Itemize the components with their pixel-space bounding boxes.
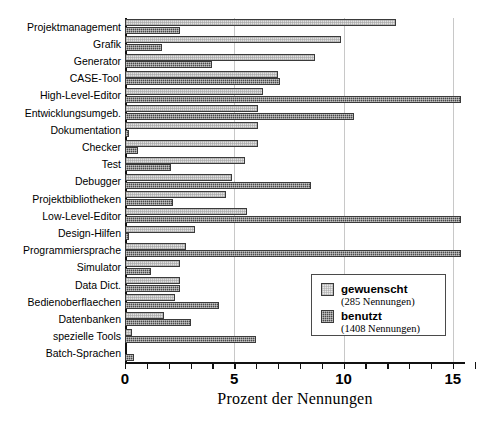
x-tick-label-5: 5 — [230, 370, 238, 387]
bar-benutzt-15 — [125, 285, 180, 292]
category-label-16: Bedienoberflaechen — [0, 296, 121, 307]
bar-chart: 051015 ProjektmanagementGrafikGeneratorC… — [0, 0, 490, 427]
bar-gewuenscht-3 — [125, 71, 278, 78]
bar-gewuenscht-15 — [125, 277, 180, 284]
x-tick-label-15: 15 — [444, 370, 461, 387]
bar-gewuenscht-12 — [125, 226, 195, 233]
x-tick-0 — [125, 362, 126, 369]
bar-benutzt-1 — [125, 44, 162, 51]
legend-label-benutzt: benutzt — [341, 310, 382, 323]
x-axis-title: Prozent der Nennungen — [125, 390, 465, 408]
bar-gewuenscht-0 — [125, 19, 396, 26]
category-label-19: Batch-Sprachen — [0, 348, 121, 359]
x-tick-9 — [322, 362, 323, 369]
bar-gewuenscht-2 — [125, 54, 315, 61]
legend-count-benutzt: (1408 Nennungen) — [341, 323, 420, 335]
bar-gewuenscht-10 — [125, 191, 226, 198]
x-tick-16 — [475, 362, 476, 369]
category-label-7: Checker — [0, 142, 121, 153]
category-label-15: Data Dict. — [0, 279, 121, 290]
bar-gewuenscht-8 — [125, 157, 245, 164]
x-tick-label-0: 0 — [121, 370, 129, 387]
bar-benutzt-17 — [125, 319, 191, 326]
category-label-18: spezielle Tools — [0, 331, 121, 342]
bar-gewuenscht-4 — [125, 88, 263, 95]
legend-swatch-light-icon — [321, 283, 334, 296]
x-tick-10 — [344, 362, 345, 369]
x-tick-4 — [212, 362, 213, 369]
bar-benutzt-14 — [125, 268, 151, 275]
x-tick-2 — [169, 362, 170, 369]
x-tick-13 — [409, 362, 410, 369]
bar-gewuenscht-5 — [125, 105, 258, 112]
category-label-11: Low-Level-Editor — [0, 210, 121, 221]
x-tick-8 — [300, 362, 301, 369]
bar-benutzt-18 — [125, 336, 256, 343]
bar-benutzt-10 — [125, 199, 173, 206]
legend-swatch-dark-icon — [321, 310, 334, 323]
x-axis-line — [125, 362, 465, 364]
gridline-5 — [234, 18, 235, 362]
bar-benutzt-19 — [125, 354, 134, 361]
bar-gewuenscht-6 — [125, 122, 258, 129]
x-tick-14 — [431, 362, 432, 369]
category-label-13: Programmiersprache — [0, 245, 121, 256]
x-tick-11 — [365, 362, 366, 369]
bar-benutzt-4 — [125, 96, 461, 103]
bar-gewuenscht-7 — [125, 140, 258, 147]
x-tick-12 — [387, 362, 388, 369]
x-tick-15 — [453, 362, 454, 369]
category-label-12: Design-Hilfen — [0, 228, 121, 239]
bar-gewuenscht-13 — [125, 243, 186, 250]
x-tick-5 — [234, 362, 235, 369]
x-tick-1 — [147, 362, 148, 369]
category-label-1: Grafik — [0, 38, 121, 49]
bar-benutzt-3 — [125, 78, 280, 85]
category-label-2: Generator — [0, 56, 121, 67]
bar-benutzt-13 — [125, 250, 461, 257]
bar-benutzt-12 — [125, 233, 129, 240]
bar-benutzt-6 — [125, 130, 129, 137]
x-tick-6 — [256, 362, 257, 369]
bar-benutzt-16 — [125, 302, 219, 309]
bar-gewuenscht-17 — [125, 312, 164, 319]
category-label-0: Projektmanagement — [0, 21, 121, 32]
category-label-4: High-Level-Editor — [0, 90, 121, 101]
bar-benutzt-9 — [125, 182, 311, 189]
bar-benutzt-7 — [125, 147, 138, 154]
bar-benutzt-11 — [125, 216, 461, 223]
legend-count-gewuenscht: (285 Nennungen) — [341, 296, 415, 308]
gridline-15 — [453, 18, 454, 362]
bar-gewuenscht-1 — [125, 36, 341, 43]
legend: gewuenscht (285 Nennungen) benutzt (1408… — [311, 274, 446, 336]
category-label-14: Simulator — [0, 262, 121, 273]
category-label-17: Datenbanken — [0, 314, 121, 325]
category-label-10: Projektbibliotheken — [0, 193, 121, 204]
bar-gewuenscht-14 — [125, 260, 180, 267]
bar-benutzt-2 — [125, 61, 212, 68]
bar-gewuenscht-11 — [125, 208, 247, 215]
bar-benutzt-0 — [125, 27, 180, 34]
y-axis-line — [125, 18, 127, 362]
category-label-8: Test — [0, 159, 121, 170]
category-label-9: Debugger — [0, 176, 121, 187]
x-tick-3 — [191, 362, 192, 369]
bar-gewuenscht-16 — [125, 294, 175, 301]
category-label-3: CASE-Tool — [0, 73, 121, 84]
category-label-5: Entwicklungsumgeb. — [0, 107, 121, 118]
x-tick-7 — [278, 362, 279, 369]
legend-label-gewuenscht: gewuenscht — [341, 283, 407, 296]
x-tick-label-10: 10 — [335, 370, 352, 387]
bar-gewuenscht-9 — [125, 174, 232, 181]
bar-benutzt-5 — [125, 113, 354, 120]
category-label-6: Dokumentation — [0, 124, 121, 135]
bar-benutzt-8 — [125, 164, 171, 171]
bar-gewuenscht-18 — [125, 329, 132, 336]
